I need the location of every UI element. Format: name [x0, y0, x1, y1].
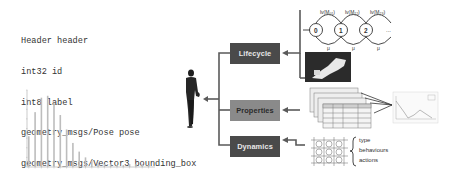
histogram-bar	[116, 165, 118, 167]
histogram-bar	[28, 136, 30, 167]
transition-label: lv(M₁₂)	[345, 9, 360, 15]
histogram-bar	[60, 115, 62, 167]
dynamics-label: Dynamics	[237, 142, 273, 151]
histogram-bar	[41, 98, 43, 167]
connectors	[207, 53, 230, 145]
arrow-to-person-icon	[203, 96, 208, 102]
histogram-bar	[135, 164, 137, 167]
dynamics-box: Dynamics	[230, 136, 280, 157]
histogram-bar	[123, 165, 125, 167]
histogram-bar	[129, 164, 131, 167]
dynamics-item: behaviours	[359, 147, 388, 154]
histogram-bar	[66, 129, 68, 167]
rate-label: μ	[377, 45, 380, 51]
state-label: ...	[386, 27, 391, 33]
person-icon	[186, 70, 200, 129]
histogram-chart	[26, 90, 155, 169]
lifecycle-label: Lifecycle	[239, 49, 272, 58]
histogram-bar	[148, 165, 150, 167]
state-label: 2	[364, 27, 368, 34]
distribution-chart-thumbnail	[393, 92, 438, 123]
dynamics-item: actions	[359, 157, 378, 164]
properties-label: Properties	[236, 106, 274, 115]
histogram-bar	[34, 112, 36, 167]
histogram-bar	[85, 157, 87, 167]
transition-label: lv(M₂₃)	[370, 9, 385, 15]
histogram-bar	[72, 143, 74, 167]
dynamics-item: type	[359, 137, 370, 144]
lifecycle-box: Lifecycle	[230, 43, 280, 64]
histogram-bar	[97, 163, 99, 167]
floorplan-image	[305, 52, 351, 82]
histogram-bar	[110, 164, 112, 167]
arrow-properties-icon	[282, 107, 288, 113]
properties-box: Properties	[230, 100, 280, 121]
state-label: 0	[314, 27, 318, 34]
histogram-bar	[104, 164, 106, 167]
histogram-bar	[53, 103, 55, 167]
dynamics-grid-graph	[311, 137, 348, 166]
transition-label: lv(M₀₁)	[320, 9, 335, 15]
property-tables	[310, 88, 371, 128]
histogram-bar	[91, 161, 93, 167]
state-label: 1	[339, 27, 343, 34]
histogram-bar	[78, 152, 80, 167]
histogram-bar	[47, 96, 49, 167]
histogram-bar	[141, 164, 143, 167]
brace-icon	[350, 137, 356, 166]
arrow-dynamics-icon	[282, 137, 288, 143]
arrow-lifecycle-icon	[282, 50, 288, 56]
rate-label: μ	[352, 45, 355, 51]
rate-label: μ	[327, 45, 330, 51]
